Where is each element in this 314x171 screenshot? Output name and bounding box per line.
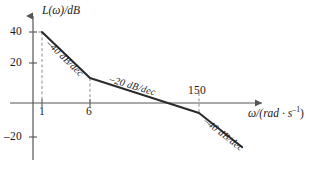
x-axis-title-suffix: ): [300, 107, 304, 119]
x-tick-label-150: 150: [188, 85, 206, 97]
plot-canvas: [0, 0, 314, 171]
x-tick-label-6: 6: [86, 106, 92, 118]
y-tick-label-20: 20: [10, 57, 22, 69]
x-axis-title-prefix: ω/(rad · s: [248, 107, 292, 119]
y-axis-title-text: L(ω)/dB: [42, 4, 80, 16]
x-axis-title-exponent: –1: [292, 105, 300, 114]
bode-plot-figure: L(ω)/dB ω/(rad · s–1) 40 20 –20 1 6 150 …: [0, 0, 314, 171]
y-tick-label-minus-20: –20: [4, 131, 22, 143]
y-tick-label-40: 40: [10, 26, 22, 38]
x-tick-label-1: 1: [39, 106, 45, 118]
y-axis-title: L(ω)/dB: [42, 5, 80, 17]
x-axis-title: ω/(rad · s–1): [248, 108, 304, 120]
